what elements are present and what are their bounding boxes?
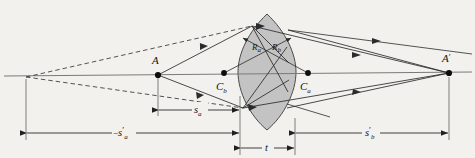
paper-background [0, 0, 475, 158]
point-dot-center-Ca [305, 70, 311, 76]
point-dot-object-A [155, 72, 161, 78]
point-dot-image-A-prime [446, 70, 452, 76]
ray-diagram-canvas: A A′ Cb Ca Ra Rb sa −s′a s′b [0, 0, 475, 158]
point-dot-center-Cb [221, 70, 227, 76]
label-point-A: A [151, 54, 159, 66]
optics-ray-diagram-figure: A A′ Cb Ca Ra Rb sa −s′a s′b [0, 0, 475, 158]
backing-t [262, 140, 274, 153]
